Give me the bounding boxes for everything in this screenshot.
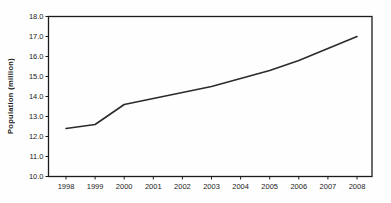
x-axis-tick-label: 2001 bbox=[145, 182, 162, 191]
x-axis-tick-label: 2000 bbox=[116, 182, 133, 191]
population-data-line bbox=[66, 37, 357, 129]
x-axis-tick-label: 2003 bbox=[203, 182, 220, 191]
y-axis-tick-label: 10.0 bbox=[29, 172, 44, 181]
x-axis-tick-label: 1998 bbox=[58, 182, 75, 191]
x-axis-tick-label: 2006 bbox=[290, 182, 307, 191]
y-axis-tick-label: 18.0 bbox=[29, 12, 44, 21]
y-axis-tick-label: 13.0 bbox=[29, 112, 44, 121]
x-axis-tick-label: 2004 bbox=[232, 182, 249, 191]
x-axis-tick-label: 2002 bbox=[174, 182, 191, 191]
y-axis-tick-label: 15.0 bbox=[29, 72, 44, 81]
y-axis-title: Population (million) bbox=[6, 16, 15, 176]
x-axis-tick-label: 1999 bbox=[87, 182, 104, 191]
y-axis-tick-label: 12.0 bbox=[29, 132, 44, 141]
x-axis-tick-label: 2007 bbox=[320, 182, 337, 191]
y-axis-tick-label: 16.0 bbox=[29, 52, 44, 61]
plot-frame bbox=[49, 17, 373, 177]
x-axis-tick-label: 2008 bbox=[349, 182, 366, 191]
x-axis-tick-label: 2005 bbox=[261, 182, 278, 191]
y-axis-tick-label: 11.0 bbox=[29, 152, 43, 161]
y-axis-tick-label: 14.0 bbox=[29, 92, 44, 101]
population-line-chart-figure: Population (million) 10.011.012.013.014.… bbox=[0, 0, 391, 203]
chart-plot-area: 10.011.012.013.014.015.016.017.018.01998… bbox=[0, 0, 391, 203]
y-axis-tick-label: 17.0 bbox=[29, 32, 44, 41]
